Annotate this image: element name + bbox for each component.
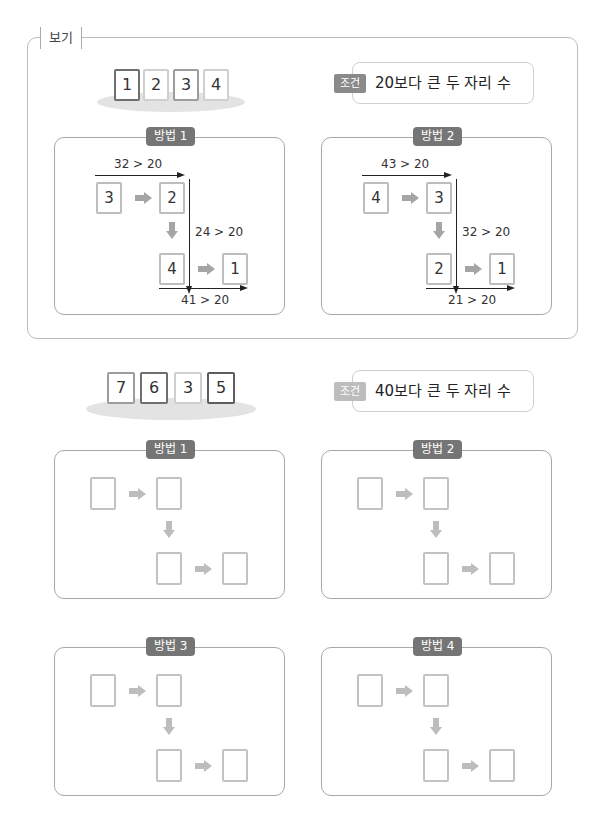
comparison-arrow-1 [362, 175, 447, 176]
example-slot-b: 3 [426, 182, 452, 214]
example-slot-a: 3 [96, 182, 122, 214]
right-arrow-icon [396, 488, 414, 500]
example-slot-d: 1 [222, 253, 248, 285]
example-card-2: 2 [143, 69, 169, 101]
arrow-head-icon [444, 172, 452, 178]
problem-condition-box: 40보다 큰 두 자리 수 [352, 370, 534, 412]
example-slot-c: 2 [426, 253, 452, 285]
down-arrow-icon [163, 718, 175, 736]
right-arrow-icon [462, 760, 480, 772]
example-card-1: 1 [114, 69, 140, 101]
right-arrow-icon [198, 263, 216, 275]
right-arrow-icon [396, 685, 414, 697]
answer-slot-3[interactable] [423, 749, 449, 782]
right-arrow-icon [462, 563, 480, 575]
comparison-arrow-2 [456, 179, 457, 288]
problem-method-2-title: 방법 2 [413, 440, 462, 459]
example-slot-a: 4 [363, 182, 389, 214]
comparison-2: 24 > 20 [195, 225, 243, 239]
answer-slot-4[interactable] [489, 749, 515, 782]
example-card-4: 4 [203, 69, 229, 101]
example-method-2-title: 방법 2 [413, 127, 462, 146]
arrow-head-icon [240, 285, 248, 291]
problem-method-4-panel: 방법 4 [321, 647, 552, 796]
comparison-3: 21 > 20 [448, 293, 496, 307]
comparison-1: 43 > 20 [381, 157, 429, 171]
comparison-1: 32 > 20 [114, 157, 162, 171]
down-arrow-icon [430, 521, 442, 539]
problem-method-2-panel: 방법 2 [321, 450, 552, 599]
problem-card-5: 5 [207, 372, 235, 404]
right-arrow-icon [129, 685, 147, 697]
arrow-head-icon [177, 172, 185, 178]
answer-slot-1[interactable] [357, 674, 383, 707]
example-label: 보기 [40, 27, 82, 49]
example-slot-d: 1 [489, 253, 515, 285]
down-arrow-icon [166, 222, 178, 240]
problem-method-1-panel: 방법 1 [54, 450, 285, 599]
example-condition-tag: 조건 [334, 74, 366, 93]
comparison-arrow-2 [189, 179, 190, 288]
answer-slot-1[interactable] [357, 477, 383, 510]
answer-slot-4[interactable] [222, 552, 248, 585]
example-card-3: 3 [173, 69, 199, 101]
problem-method-1-title: 방법 1 [146, 440, 195, 459]
example-condition-box: 20보다 큰 두 자리 수 [352, 62, 534, 104]
down-arrow-icon [163, 521, 175, 539]
comparison-arrow-3 [159, 288, 243, 289]
problem-method-4-title: 방법 4 [413, 637, 462, 656]
answer-slot-3[interactable] [423, 552, 449, 585]
problem-card-3: 3 [174, 372, 202, 404]
answer-slot-4[interactable] [222, 749, 248, 782]
answer-slot-1[interactable] [90, 477, 116, 510]
problem-card-7: 7 [107, 372, 135, 404]
example-method-2-panel: 방법 2 43 > 20 4 3 32 > 20 2 1 21 > 20 [321, 137, 552, 315]
comparison-2: 32 > 20 [462, 225, 510, 239]
right-arrow-icon [402, 192, 420, 204]
right-arrow-icon [195, 563, 213, 575]
arrow-head-icon [507, 285, 515, 291]
problem-method-3-title: 방법 3 [146, 637, 195, 656]
problem-card-6: 6 [140, 372, 168, 404]
answer-slot-2[interactable] [423, 674, 449, 707]
problem-method-3-panel: 방법 3 [54, 647, 285, 796]
down-arrow-icon [430, 718, 442, 736]
comparison-3: 41 > 20 [181, 293, 229, 307]
example-method-1-panel: 방법 1 32 > 20 3 2 24 > 20 4 1 41 > 20 [54, 137, 285, 315]
example-slot-b: 2 [159, 182, 185, 214]
right-arrow-icon [465, 263, 483, 275]
answer-slot-3[interactable] [156, 552, 182, 585]
example-method-1-title: 방법 1 [146, 127, 195, 146]
down-arrow-icon [433, 222, 445, 240]
answer-slot-4[interactable] [489, 552, 515, 585]
example-slot-c: 4 [159, 253, 185, 285]
answer-slot-2[interactable] [156, 674, 182, 707]
answer-slot-2[interactable] [423, 477, 449, 510]
right-arrow-icon [195, 760, 213, 772]
problem-condition-tag: 조건 [334, 382, 366, 401]
right-arrow-icon [129, 488, 147, 500]
right-arrow-icon [135, 192, 153, 204]
example-condition-text: 20보다 큰 두 자리 수 [375, 74, 511, 92]
comparison-arrow-1 [95, 175, 180, 176]
problem-condition-text: 40보다 큰 두 자리 수 [375, 382, 511, 400]
answer-slot-3[interactable] [156, 749, 182, 782]
answer-slot-1[interactable] [90, 674, 116, 707]
comparison-arrow-3 [426, 288, 510, 289]
answer-slot-2[interactable] [156, 477, 182, 510]
